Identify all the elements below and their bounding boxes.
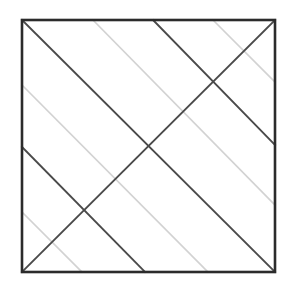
diagonal-hatch-figure — [0, 0, 294, 287]
